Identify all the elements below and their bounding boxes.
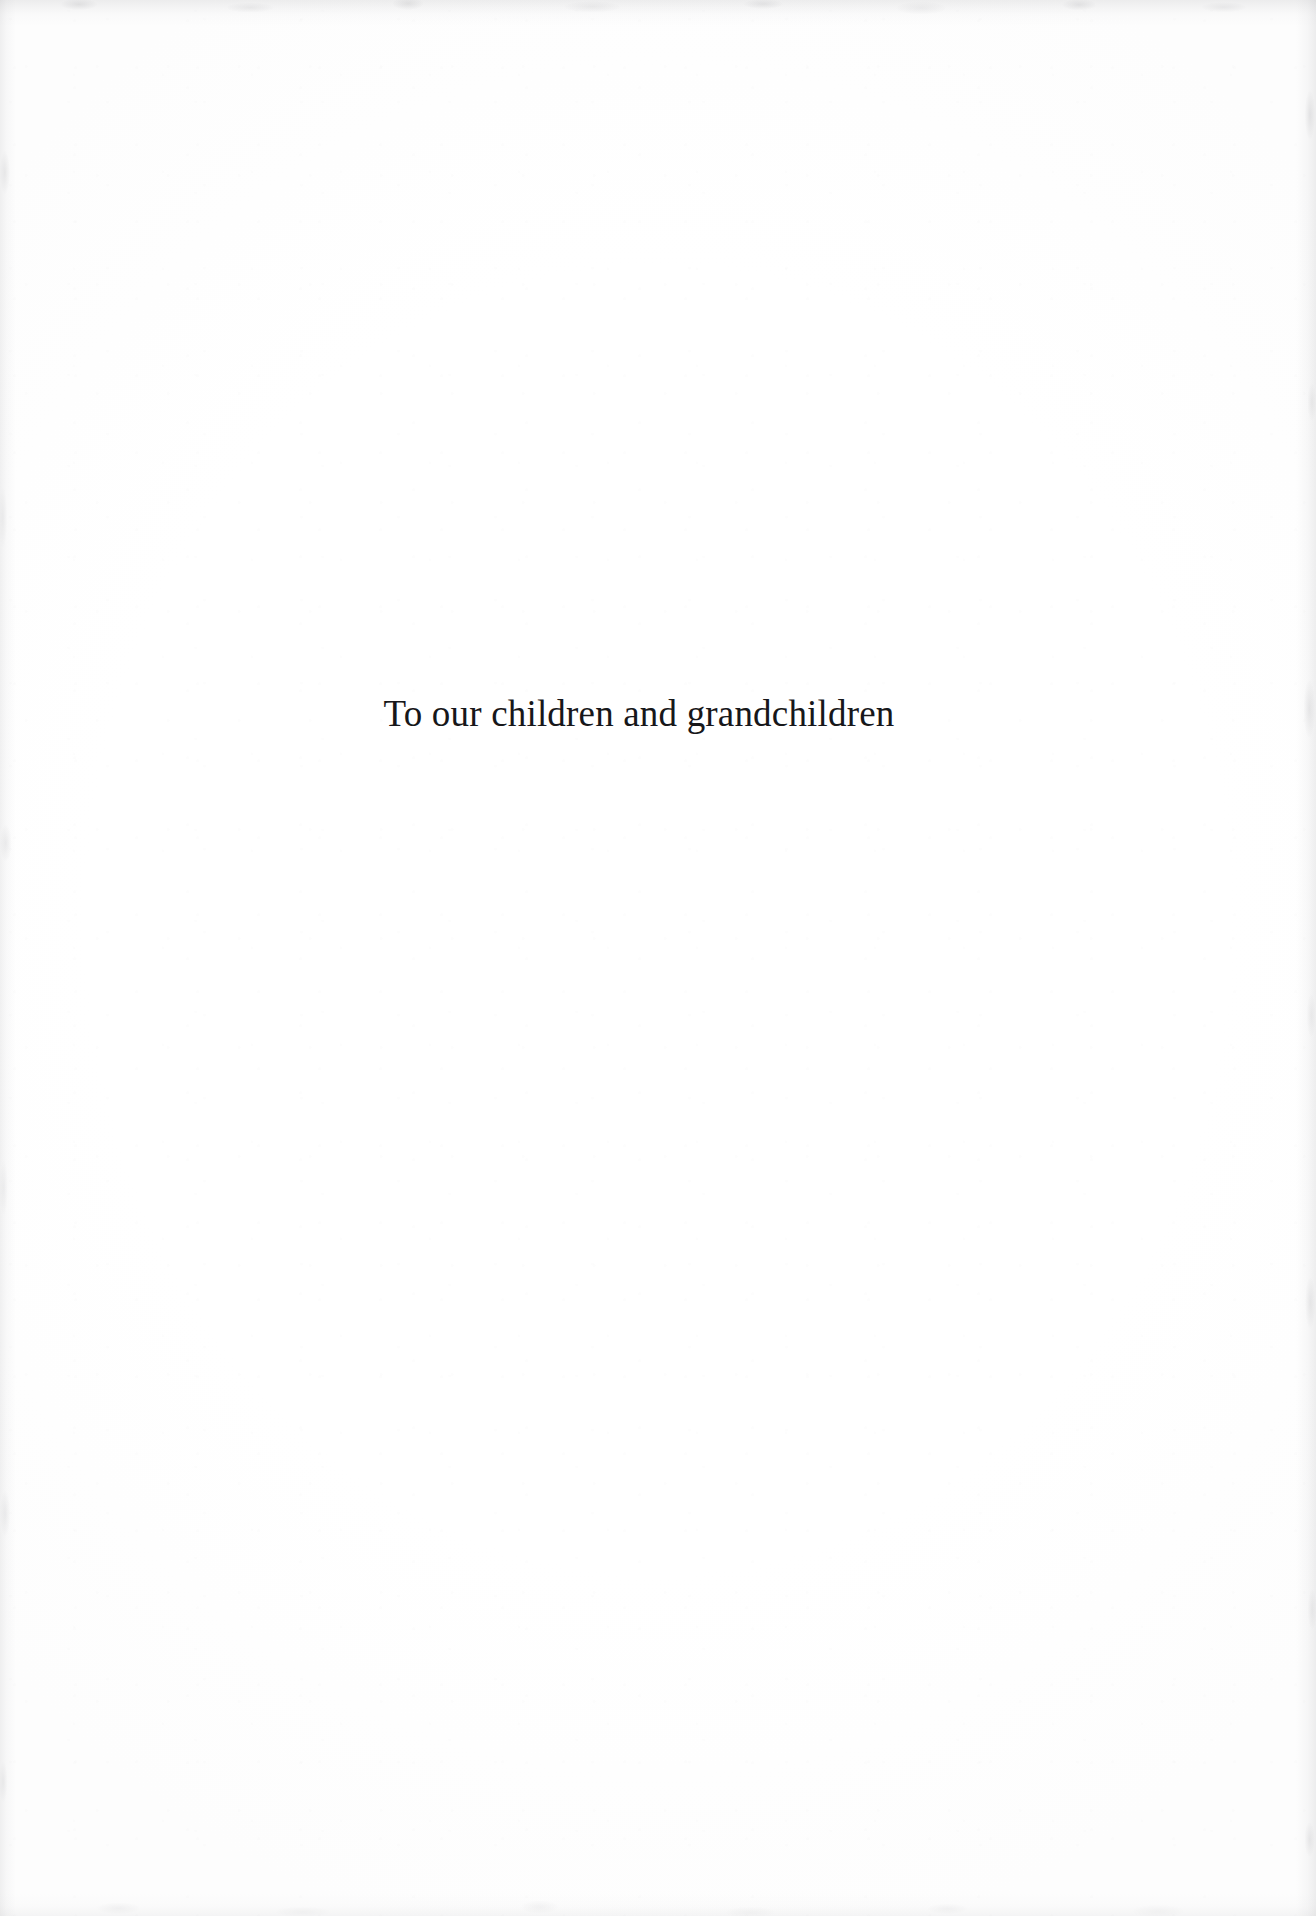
- scan-edge-right: [1296, 0, 1316, 1916]
- scan-edge-left: [0, 0, 16, 1916]
- dedication-page: To our children and grandchildren: [0, 0, 1316, 1916]
- dedication-text: To our children and grandchildren: [384, 692, 895, 736]
- scan-edge-top: [0, 0, 1316, 26]
- scan-edge-left-mottle: [0, 0, 13, 1916]
- dedication-block: To our children and grandchildren: [0, 692, 1316, 736]
- scan-edge-top-mottle: [0, 0, 1316, 20]
- scan-edge-bottom: [0, 1894, 1316, 1916]
- paper-tint-overlay: [0, 0, 1316, 1916]
- paper-grain-texture: [0, 0, 1316, 1916]
- scan-edge-right-mottle: [1300, 0, 1316, 1916]
- scan-edge-bottom-mottle: [0, 1886, 1316, 1916]
